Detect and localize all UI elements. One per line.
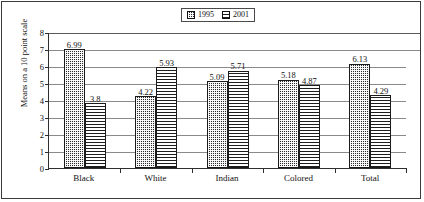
bar-value-label: 5.71 — [231, 62, 246, 71]
legend-label-2001: 2001 — [233, 11, 249, 19]
bar-1995-white: 4.22 — [135, 96, 156, 168]
bar-group-bars: 4.225.93 — [120, 33, 191, 168]
bar-value-label: 4.87 — [302, 77, 317, 86]
x-axis-tick-mark — [192, 168, 193, 173]
plot-area-wrapper: 012345678 6.993.84.225.935.095.715.184.8… — [48, 33, 406, 169]
y-axis-tick-label: 7 — [40, 46, 44, 55]
y-axis-tick-label: 8 — [40, 29, 44, 38]
bar-group: 6.993.8 — [49, 33, 120, 168]
legend-label-1995: 1995 — [198, 11, 214, 19]
legend-swatch-icon-1995 — [187, 11, 195, 19]
chart-legend: 1995 2001 — [181, 8, 255, 22]
y-axis-tick-label: 4 — [40, 97, 44, 106]
bar-1995-colored: 5.18 — [278, 80, 299, 168]
x-axis-category-labels: BlackWhiteIndianColoredTotal — [48, 174, 406, 183]
bar-group-bars: 5.184.87 — [263, 33, 334, 168]
chart-screenshot: 1995 2001 Means on a 10 point scale 0123… — [0, 0, 424, 202]
x-axis-tick-mark — [335, 168, 336, 173]
x-axis-label-colored: Colored — [263, 174, 335, 183]
bar-value-label: 6.13 — [352, 55, 367, 64]
bar-group: 5.184.87 — [263, 33, 334, 168]
bar-2001-total: 4.29 — [370, 95, 391, 168]
bar-group-bars: 5.095.71 — [192, 33, 263, 168]
y-axis-tick-label: 6 — [40, 63, 44, 72]
y-axis-tick-label: 1 — [40, 148, 44, 157]
bar-value-label: 5.09 — [210, 73, 225, 82]
bar-1995-indian: 5.09 — [207, 81, 228, 168]
plot-axes: 012345678 6.993.84.225.935.095.715.184.8… — [48, 33, 406, 169]
x-axis-label-indian: Indian — [191, 174, 263, 183]
y-axis-tick-label: 3 — [40, 114, 44, 123]
bar-group: 4.225.93 — [120, 33, 191, 168]
bar-value-label: 5.18 — [281, 71, 296, 80]
bar-2001-colored: 4.87 — [299, 85, 320, 168]
bar-2001-white: 5.93 — [156, 67, 177, 168]
bar-group-bars: 6.134.29 — [335, 33, 406, 168]
y-axis-tick-label: 2 — [40, 131, 44, 140]
bar-2001-indian: 5.71 — [228, 71, 249, 168]
x-axis-label-black: Black — [48, 174, 120, 183]
bar-group: 6.134.29 — [335, 33, 406, 168]
bar-1995-black: 6.99 — [64, 49, 85, 168]
x-axis-tick-mark — [406, 168, 407, 173]
x-axis-tick-mark — [120, 168, 121, 173]
bar-value-label: 4.29 — [373, 87, 388, 96]
bar-value-label: 5.93 — [159, 59, 174, 68]
x-axis-label-total: Total — [334, 174, 406, 183]
legend-entry-2001: 2001 — [222, 11, 249, 19]
x-axis-tick-mark — [263, 168, 264, 173]
y-axis-tick-mark — [45, 169, 49, 170]
bar-group-bars: 6.993.8 — [49, 33, 120, 168]
bar-2001-black: 3.8 — [85, 103, 106, 168]
y-axis-tick-label: 5 — [40, 80, 44, 89]
x-axis-label-white: White — [120, 174, 192, 183]
legend-swatch-icon-2001 — [222, 11, 230, 19]
y-axis-tick-label: 0 — [40, 165, 44, 174]
legend-entry-1995: 1995 — [187, 11, 214, 19]
bar-groups: 6.993.84.225.935.095.715.184.876.134.29 — [49, 33, 406, 168]
bar-1995-total: 6.13 — [349, 64, 370, 168]
bar-value-label: 4.22 — [138, 88, 153, 97]
bar-value-label: 3.8 — [90, 95, 101, 104]
y-axis-title: Means on a 10 point scale — [19, 0, 29, 133]
bar-value-label: 6.99 — [67, 41, 82, 50]
bar-group: 5.095.71 — [192, 33, 263, 168]
